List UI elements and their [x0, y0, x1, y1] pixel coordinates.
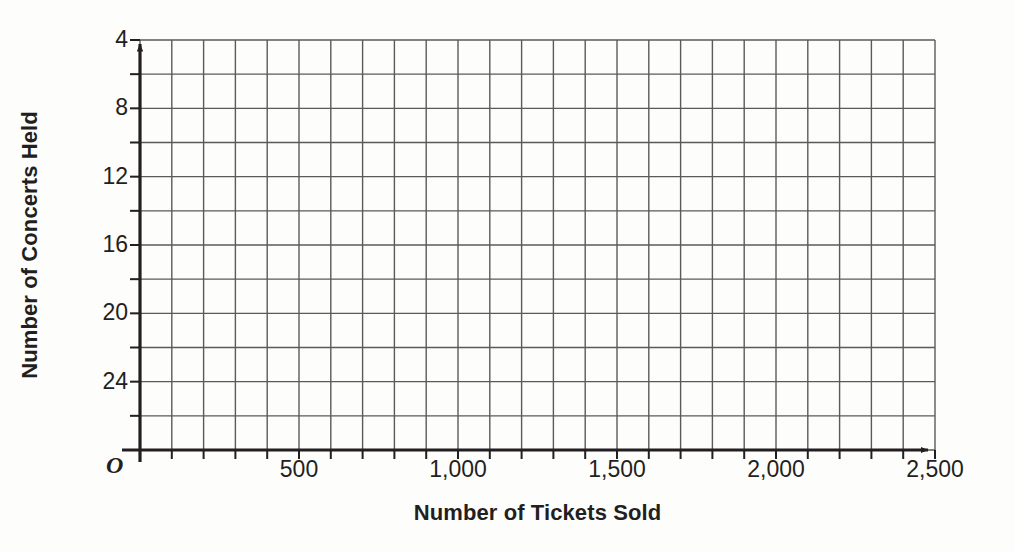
x-tick-label-1500: 1,500 [557, 458, 677, 481]
x-axis-labels: 500 1,000 1,500 2,000 2,500 [0, 0, 1014, 552]
x-tick-label-2000: 2,000 [716, 458, 836, 481]
x-tick-label-500: 500 [239, 458, 359, 481]
x-tick-label-2500: 2,500 [875, 458, 995, 481]
origin-label: O [106, 452, 123, 479]
x-tick-label-1000: 1,000 [398, 458, 518, 481]
y-axis-title: Number of Concerts Held [0, 30, 60, 460]
x-axis-title: Number of Tickets Sold [140, 500, 935, 526]
chart-container: 24 20 16 12 8 4 500 1,000 1,500 2,000 2,… [0, 0, 1014, 552]
